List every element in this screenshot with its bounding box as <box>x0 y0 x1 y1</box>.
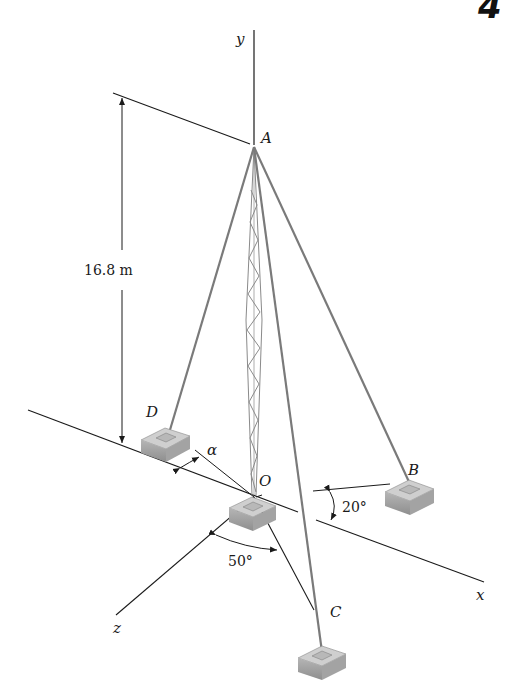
anchor-base-D <box>141 428 190 462</box>
guy-cables <box>167 147 410 652</box>
point-B-label: B <box>407 461 419 479</box>
height-dimension-label: 16.8 m <box>84 262 133 278</box>
point-D-label: D <box>145 403 158 421</box>
angle-20-arc <box>330 492 334 520</box>
angle-alpha-arc <box>180 457 199 468</box>
x-axis-label: x <box>476 586 485 604</box>
angle-50-label: 50° <box>228 553 253 569</box>
y-axis-label: y <box>235 30 245 48</box>
tower-guy-cable-diagram: 4 y 16.8 m x 20° z 50° α <box>0 0 512 681</box>
angle-alpha-label: α <box>207 441 217 459</box>
alpha-reference-line <box>195 450 254 497</box>
anchor-base-B <box>385 480 434 515</box>
dimension-extension-line <box>113 93 250 144</box>
point-A-label: A <box>259 129 272 147</box>
angle-50-arc <box>216 535 277 550</box>
cable-AD <box>167 147 254 440</box>
lattice-mast <box>246 147 262 495</box>
point-C-label: C <box>330 603 342 621</box>
x-axis <box>316 520 484 582</box>
b-direction-line-2 <box>313 484 390 491</box>
corner-number-glyph: 4 <box>477 0 502 26</box>
z-axis-label: z <box>112 619 121 637</box>
anchor-base-C <box>298 646 346 680</box>
point-O-label: O <box>259 472 271 490</box>
angle-20-label: 20° <box>342 499 367 515</box>
